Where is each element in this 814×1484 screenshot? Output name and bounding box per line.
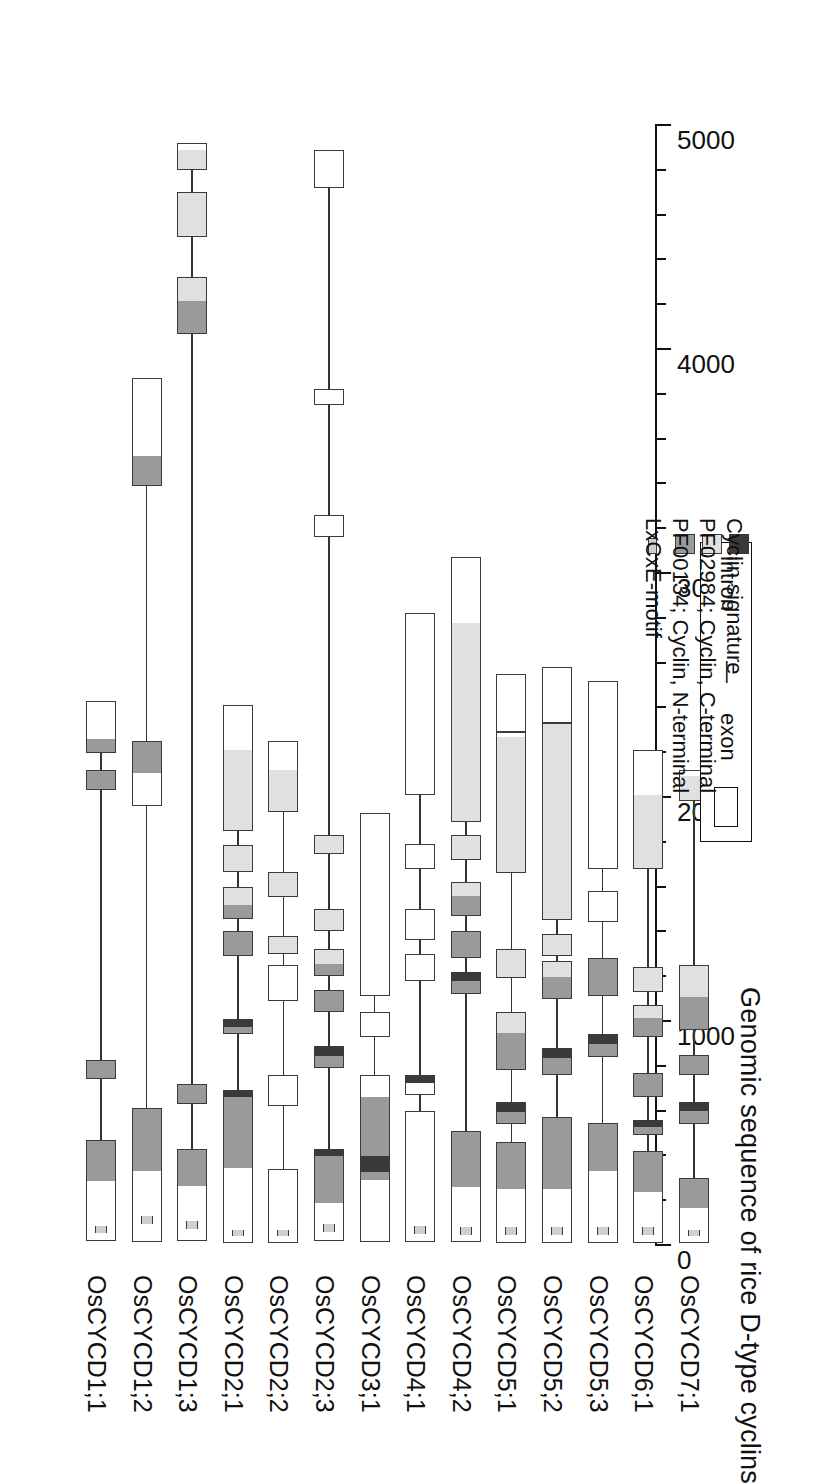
domain-segment-pf02984 [224,750,252,830]
exon-box [405,1075,435,1095]
domain-segment-pf02984 [452,882,480,895]
exon-box [86,1060,116,1079]
domain-segment-pf02984 [680,965,708,996]
domain-segment-pf00134 [315,990,343,1012]
exon-box [542,1117,572,1242]
domain-segment-pf02984 [543,934,571,956]
gene-lane: OsCYCD1;1 [86,0,116,1463]
domain-segment-pf00134 [315,964,343,976]
exon-box [223,705,253,830]
domain-segment-pf00134 [224,1027,252,1035]
domain-segment-pf00134 [178,1149,206,1186]
exon-box [314,515,344,537]
domain-segment-pf00134 [680,1055,708,1075]
domain-segment-pf00134 [543,1118,571,1190]
domain-segment-pf00134 [634,1151,662,1191]
exon-box [132,741,162,806]
exon-box [542,1048,572,1075]
domain-segment-pf02984 [452,623,480,822]
exon-box [633,1073,663,1098]
gene-label-OsCYCD1-1: OsCYCD1;1 [82,1275,111,1413]
exon-box [679,1055,709,1075]
domain-segment-pf00134 [452,896,480,916]
domain-segment-pf00134 [315,1056,343,1068]
gene-label-OsCYCD2-1: OsCYCD2;1 [219,1275,248,1413]
domain-segment-pf00134 [133,456,161,486]
gene-lane: OsCYCD5;3 [588,0,618,1463]
domain-segment-pf00134 [497,1142,525,1189]
gene-label-OsCYCD4-2: OsCYCD4;2 [447,1275,476,1413]
legend-domain-label: Cyclin signature [721,518,747,675]
domain-segment-lxcxe [232,1230,244,1237]
domain-segment-pf02984 [497,1012,525,1032]
domain-segment-signature [361,1156,389,1171]
gene-lane: OsCYCD1;3 [177,0,207,1463]
exon-box [132,1108,162,1241]
domain-segment-pf00134 [589,1123,617,1171]
domain-segment-signature [680,1102,708,1111]
exon-box [223,887,253,919]
domain-segment-pf02984 [497,950,525,979]
domain-segment-pf02984 [269,872,297,896]
exon-box [633,1120,663,1136]
domain-segment-pf00134 [680,1178,708,1208]
domain-segment-pf02984 [315,909,343,931]
exon-box [360,1171,390,1242]
exon-box [314,909,344,931]
domain-segment-pf00134 [680,1111,708,1124]
exon-box [542,667,572,723]
domain-segment-signature [589,1035,617,1044]
gene-label-OsCYCD5-2: OsCYCD5;2 [538,1275,567,1413]
domain-segment-pf02984 [178,150,206,170]
domain-segment-pf00134 [133,741,161,772]
exon-box [588,891,618,922]
domain-segment-signature [452,972,480,981]
gene-lane: OsCYCD2;2 [268,0,298,1463]
exon-box [588,681,618,869]
domain-segment-lxcxe [414,1226,426,1234]
gene-lane: OsCYCD2;1 [223,0,253,1463]
domain-segment-pf00134 [497,1033,525,1071]
domain-segment-pf00134 [133,1109,161,1172]
legend-domain-label: PF00134; Cyclin, N-terminal [667,518,693,793]
domain-segment-pf02984 [269,936,297,954]
gene-lane: OsCYCD4;2 [451,0,481,1463]
gene-label-OsCYCD7-1: OsCYCD7;1 [675,1275,704,1413]
domain-segment-pf02984 [178,193,206,238]
domain-segment-pf02984 [452,835,480,859]
domain-segment-pf02984 [543,961,571,977]
domain-segment-pf00134 [634,1018,662,1037]
exon-box [268,741,298,812]
gene-label-OsCYCD5-3: OsCYCD5;3 [584,1275,613,1413]
domain-segment-pf00134 [634,1127,662,1136]
legend-domain-label: PF02984; Cyclin, C-terminal [694,518,720,793]
domain-segment-pf02984 [315,950,343,965]
exon-box [405,954,435,981]
exon-box [496,1012,526,1070]
gene-lane: OsCYCD2;3 [314,0,344,1463]
gene-lane: OsCYCD3;1 [360,0,390,1463]
domain-segment-pf02984 [224,845,252,872]
exon-box [268,1169,298,1243]
exon-box [177,143,207,170]
exon-box [177,1084,207,1104]
domain-segment-lxcxe [597,1227,609,1235]
exon-box [223,1090,253,1242]
domain-segment-pf02984 [497,737,525,873]
domain-segment-pf02984 [269,770,297,811]
exon-box [177,1149,207,1241]
exon-box [314,389,344,405]
domain-segment-pf00134 [543,977,571,999]
domain-segment-signature [224,1091,252,1098]
exon-box [633,1151,663,1243]
exon-box [588,1034,618,1056]
gene-label-OsCYCD2-3: OsCYCD2;3 [310,1275,339,1413]
gene-label-OsCYCD3-1: OsCYCD3;1 [356,1275,385,1413]
domain-segment-pf02984 [634,968,662,992]
exon-box [314,1046,344,1068]
domain-segment-lxcxe [688,1230,700,1237]
gene-label-OsCYCD1-2: OsCYCD1;2 [128,1275,157,1413]
domain-segment-pf02984 [634,795,662,869]
gene-label-OsCYCD2-2: OsCYCD2;2 [264,1275,293,1413]
